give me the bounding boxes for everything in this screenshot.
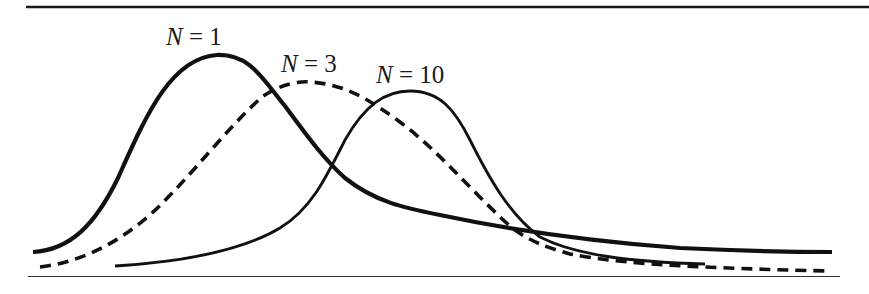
label-n10-var: N [375, 61, 394, 88]
distribution-chart: N = 1 N = 3 N = 10 [0, 0, 869, 294]
label-n1-var: N [165, 23, 184, 50]
curve-n3 [40, 82, 828, 271]
label-n10-eq: = 10 [393, 61, 445, 88]
label-n3-var: N [280, 50, 299, 77]
label-n10: N = 10 [375, 61, 444, 88]
label-n3: N = 3 [280, 50, 337, 77]
curve-n10 [115, 91, 705, 266]
label-n3-eq: = 3 [298, 50, 337, 77]
label-n1: N = 1 [165, 23, 222, 50]
label-n1-eq: = 1 [183, 23, 222, 50]
